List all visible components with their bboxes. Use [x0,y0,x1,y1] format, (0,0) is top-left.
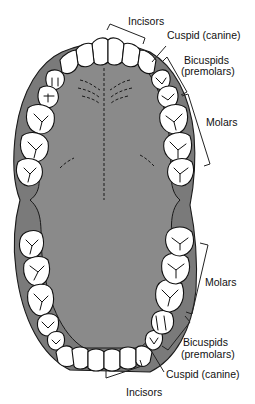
label-upper-molars: Molars [206,117,238,128]
lower-central-incisor-left [88,349,104,371]
label-lower-premolars: (premolars) [181,349,235,360]
label-lower-molars: Molars [205,277,237,288]
upper-molar-right-3 [168,159,194,186]
lower-molar-right-3 [166,227,194,256]
label-lower-bicuspids: Bicuspids [183,337,228,348]
upper-molar-right-1 [160,105,188,134]
label-upper-incisors: Incisors [128,16,164,27]
lower-molar-right-2 [162,253,190,284]
label-upper-premolars: (premolars) [181,66,235,77]
upper-molar-left-3 [16,159,42,186]
label-lower-incisors: Incisors [126,387,162,398]
lower-lateral-incisor-right [120,347,136,369]
lower-molar-left-3 [20,231,44,258]
lower-molar-right-1 [156,279,184,312]
label-upper-cuspid: Cuspid (canine) [167,30,241,41]
upper-lateral-incisor-left [76,43,94,67]
label-lower-cuspid: Cuspid (canine) [166,369,240,380]
lower-lateral-incisor-left [72,347,88,369]
lower-premolar-right-2 [151,311,173,334]
upper-lateral-incisor-right [122,43,140,67]
lower-central-incisor-right [104,349,120,371]
